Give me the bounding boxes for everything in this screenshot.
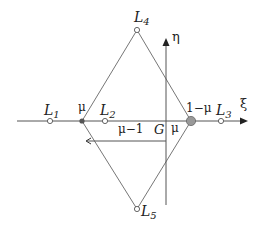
mu-left-label: μ: [78, 100, 86, 114]
l2-point: [102, 118, 107, 123]
eta-label: η: [172, 29, 180, 44]
one-minus-mu-label: 1−μ: [186, 101, 212, 115]
xi-label: ξ: [240, 96, 247, 111]
l3-point: [218, 118, 223, 123]
l4-point: [134, 27, 139, 32]
edge-l4-m1: [82, 30, 137, 121]
l5-label: L5: [140, 203, 157, 221]
triangle-lines: [82, 30, 191, 209]
lagrange-points-diagram: L1 L2 L3 L4 L5 ξ η μ 1−μ μ−1 G μ: [0, 0, 259, 233]
mu-minus-one-label: μ−1: [118, 122, 144, 136]
mu-right-label: μ: [171, 121, 179, 135]
l3-label: L3: [215, 102, 232, 120]
xi-arrow-icon: [240, 118, 248, 125]
l5-point: [134, 206, 139, 211]
primary-small-body: [79, 118, 84, 123]
eta-arrow-icon: [163, 38, 170, 46]
l1-point: [47, 118, 52, 123]
l2-label: L2: [99, 102, 116, 120]
l1-label: L1: [43, 102, 60, 120]
primary-large-body: [186, 116, 195, 125]
g-label: G: [154, 122, 164, 137]
l4-label: L4: [133, 9, 150, 27]
